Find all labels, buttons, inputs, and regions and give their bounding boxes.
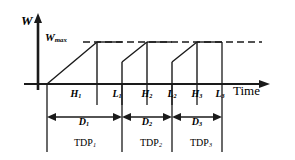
duration-base: D [142, 116, 149, 127]
x-axis-label: Time [233, 84, 260, 97]
duration-label-d2: D2 [133, 117, 161, 127]
period-sub: 2 [159, 141, 162, 148]
duration-sub: 1 [86, 120, 89, 127]
segment-sub: 3 [222, 92, 225, 99]
segment-sub: 2 [174, 92, 177, 99]
wmax-subscript: max [55, 36, 67, 43]
tdp-workload-diagram [0, 0, 295, 160]
segment-label-l3: L3 [208, 89, 232, 99]
segment-sub: 3 [199, 92, 202, 99]
period-base: TDP [74, 137, 93, 148]
duration-base: D [192, 116, 199, 127]
duration-label-d1: D1 [70, 117, 98, 127]
period-label-tdp3: TDP3 [180, 138, 222, 148]
segment-label-h2: H2 [133, 89, 161, 99]
wmax-label: Wmax [45, 32, 67, 44]
period-label-tdp2: TDP2 [130, 138, 172, 148]
duration-label-d3: D3 [183, 117, 211, 127]
segment-sub: 2 [149, 92, 152, 99]
period-sub: 3 [209, 141, 212, 148]
segment-label-h3: H3 [183, 89, 211, 99]
duration-sub: 3 [199, 120, 202, 127]
duration-sub: 2 [149, 120, 152, 127]
segment-label-l2: L2 [160, 89, 184, 99]
period-label-tdp1: TDP1 [64, 138, 106, 148]
y-axis-label: W [21, 14, 33, 27]
y-axis [34, 13, 42, 90]
segment-sub: 1 [119, 92, 122, 99]
wmax-base: W [45, 31, 55, 43]
period-sub: 1 [93, 141, 96, 148]
duration-base: D [79, 116, 86, 127]
segment-label-h1: H1 [60, 89, 92, 99]
period-base: TDP [140, 137, 159, 148]
segment-sub: 1 [78, 92, 81, 99]
workload-waveform [47, 42, 222, 84]
segment-label-l1: L1 [104, 89, 130, 99]
period-base: TDP [190, 137, 209, 148]
